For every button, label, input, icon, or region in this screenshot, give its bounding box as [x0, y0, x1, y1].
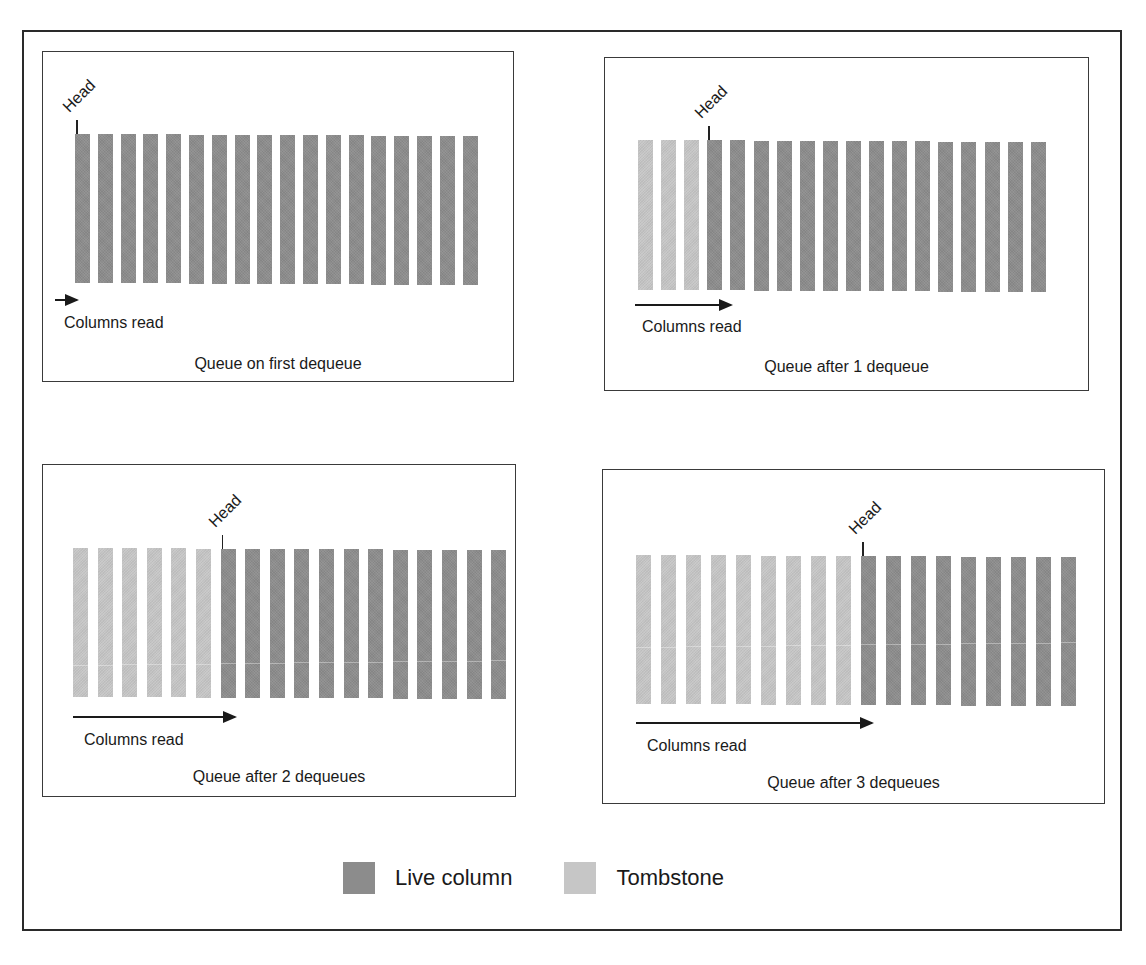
- column-seam: [73, 665, 88, 666]
- column-seam: [1011, 643, 1026, 644]
- live-column: [368, 549, 383, 698]
- tombstone-column: [98, 548, 113, 697]
- column-seam: [636, 647, 651, 648]
- live-column: [1031, 142, 1046, 292]
- tombstone-column: [786, 556, 801, 705]
- live-column: [75, 134, 90, 283]
- live-column: [463, 136, 478, 285]
- live-column: [394, 136, 409, 285]
- column-seam: [761, 646, 776, 647]
- live-column: [417, 550, 432, 699]
- panel-caption: Queue on first dequeue: [42, 355, 514, 373]
- column-seam: [319, 662, 334, 663]
- column-seam: [986, 643, 1001, 644]
- live-column: [349, 135, 364, 284]
- live-column: [777, 141, 792, 291]
- live-column: [936, 556, 951, 705]
- live-column: [326, 135, 341, 284]
- live-column-swatch: [343, 862, 375, 894]
- live-column: [143, 134, 158, 283]
- column-seam: [417, 661, 432, 662]
- live-column: [491, 550, 506, 699]
- live-column: [98, 134, 113, 283]
- live-column: [911, 556, 926, 705]
- live-column: [344, 549, 359, 698]
- live-column: [467, 550, 482, 699]
- columns-read-label: Columns read: [642, 318, 742, 336]
- column-seam: [221, 663, 236, 664]
- tombstone-column: [147, 548, 162, 697]
- column-seam: [442, 661, 457, 662]
- head-pointer: [862, 542, 864, 556]
- column-seam: [467, 661, 482, 662]
- column-seam: [171, 664, 186, 665]
- legend: Live column Tombstone: [343, 862, 724, 894]
- tombstone-column: [196, 549, 211, 698]
- tombstone-column: [636, 555, 651, 704]
- columns-read-label: Columns read: [647, 737, 747, 755]
- live-column: [189, 135, 204, 284]
- live-column: [440, 136, 455, 285]
- tombstone-column: [761, 556, 776, 705]
- tombstone-column: [736, 555, 751, 704]
- column-seam: [270, 663, 285, 664]
- live-column: [846, 141, 861, 291]
- live-column: [707, 140, 722, 290]
- tombstone-column: [711, 555, 726, 704]
- head-pointer: [76, 120, 78, 134]
- live-column: [166, 134, 181, 283]
- column-seam: [686, 646, 701, 647]
- live-column: [892, 141, 907, 291]
- live-column: [861, 556, 876, 705]
- live-column: [235, 135, 250, 284]
- columns-read-arrow: [55, 299, 77, 301]
- columns-read-arrow: [73, 716, 235, 718]
- live-column: [730, 140, 745, 290]
- live-column: [823, 141, 838, 291]
- live-column: [212, 135, 227, 284]
- column-seam: [911, 644, 926, 645]
- live-column: [393, 550, 408, 699]
- live-column: [270, 549, 285, 698]
- legend-live-label: Live column: [395, 865, 512, 891]
- head-pointer: [708, 126, 710, 140]
- live-column: [938, 142, 953, 292]
- column-seam: [961, 643, 976, 644]
- live-column: [1008, 142, 1023, 292]
- column-seam: [344, 662, 359, 663]
- column-seam: [245, 663, 260, 664]
- tombstone-column: [122, 548, 137, 697]
- live-column: [294, 549, 309, 698]
- live-column: [1061, 557, 1076, 706]
- column-seam: [491, 660, 506, 661]
- column-seam: [1036, 643, 1051, 644]
- live-column: [417, 136, 432, 285]
- column-seam: [122, 664, 137, 665]
- column-seam: [711, 646, 726, 647]
- live-column: [1036, 557, 1051, 706]
- column-seam: [936, 644, 951, 645]
- tombstone-swatch: [564, 862, 596, 894]
- legend-tombstone-label: Tombstone: [616, 865, 724, 891]
- column-seam: [736, 646, 751, 647]
- column-seam: [147, 664, 162, 665]
- live-column: [221, 549, 236, 698]
- column-seam: [661, 647, 676, 648]
- live-column: [245, 549, 260, 698]
- columns-read-arrow: [635, 304, 731, 306]
- column-seam: [861, 644, 876, 645]
- panel-caption: Queue after 3 dequeues: [602, 774, 1105, 792]
- live-column: [985, 142, 1000, 292]
- column-seam: [368, 662, 383, 663]
- tombstone-column: [686, 555, 701, 704]
- tombstone-column: [684, 140, 699, 290]
- columns-read-label: Columns read: [84, 731, 184, 749]
- column-seam: [786, 645, 801, 646]
- live-column: [961, 142, 976, 292]
- head-pointer: [222, 535, 224, 549]
- column-seam: [1061, 642, 1076, 643]
- tombstone-column: [73, 548, 88, 697]
- panel-caption: Queue after 1 dequeue: [604, 358, 1089, 376]
- live-column: [800, 141, 815, 291]
- column-seam: [836, 645, 851, 646]
